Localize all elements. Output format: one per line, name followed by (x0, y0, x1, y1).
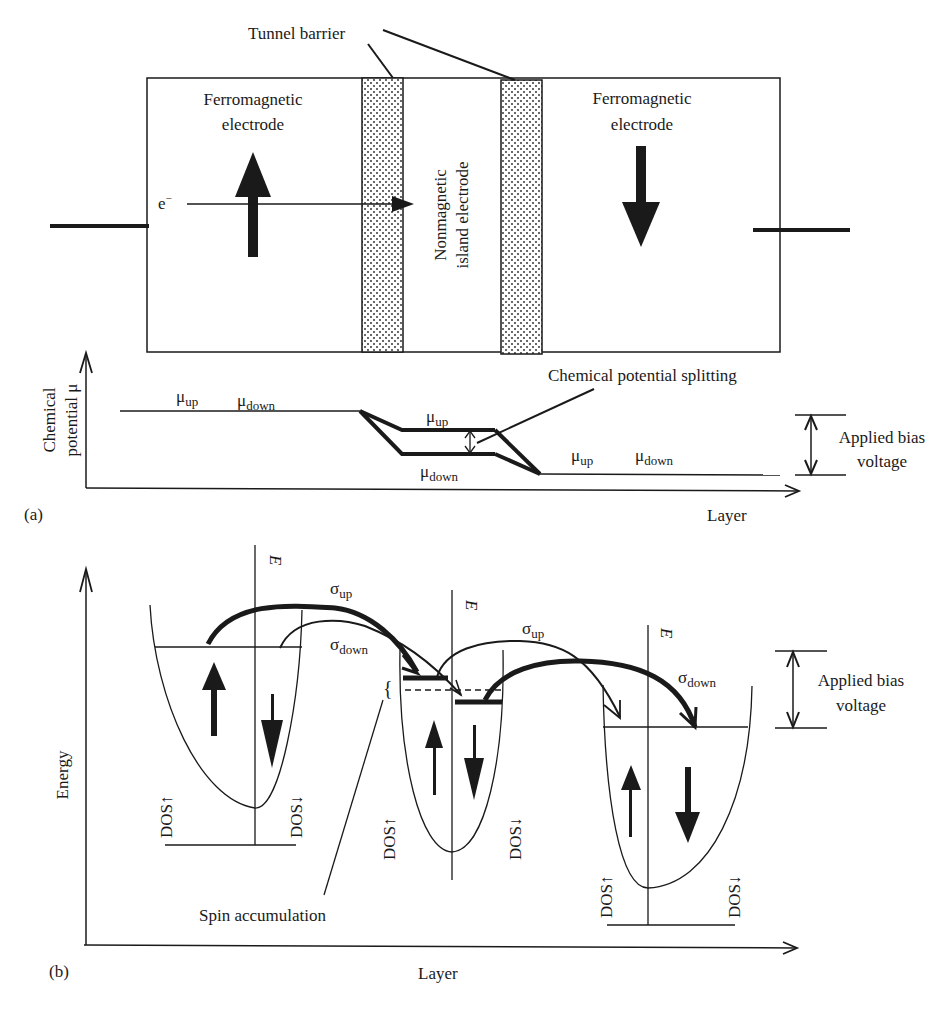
tunnel-barrier-left (362, 78, 403, 352)
left-electrode-label-1: Ferromagnetic (203, 90, 303, 109)
bias-label-a-2: voltage (857, 452, 907, 471)
middle-e-label: E (462, 599, 481, 611)
left-dos-down-label: DOS↓ (287, 795, 306, 838)
mu-up-right: μup (571, 446, 593, 468)
sigma-down-arc-left (280, 621, 461, 695)
left-dos-curve (150, 605, 302, 808)
mu-down-left: μdown (237, 391, 276, 413)
middle-spin-down-arrow-icon (464, 725, 484, 800)
spin-accumulation-brace: { (383, 677, 393, 699)
right-dos-down-label: DOS↓ (725, 875, 744, 918)
left-dos-up-label: DOS↑ (157, 795, 176, 838)
bias-label-b-1: Applied bias (818, 671, 904, 690)
electron-label: e− (158, 192, 172, 213)
tunnel-barrier-label: Tunnel barrier (248, 24, 345, 43)
svg-text:Nonmagnetic: Nonmagnetic (431, 169, 450, 261)
sigma-up-arc-right (437, 641, 620, 717)
left-spin-up-arrow-icon (202, 662, 226, 736)
tunnel-barrier-pointer-left (368, 44, 393, 78)
mu-down-ramp-right (495, 454, 540, 474)
mu-y-axis-label: Chemical potential μ (40, 384, 81, 457)
mu-up-island: μup (426, 407, 448, 429)
mu-up-ramp-right (495, 430, 540, 474)
splitting-pointer (477, 389, 594, 443)
middle-dos-up-label: DOS↑ (380, 817, 399, 860)
sigma-up-arc-left (208, 606, 417, 672)
sigma-down-label-left: σdown (330, 635, 369, 657)
right-spin-up-arrow-icon (621, 765, 641, 837)
right-electrode-label-2: electrode (611, 115, 673, 134)
right-dos: E DOS↑ DOS↓ (597, 625, 752, 925)
island-label: Nonmagnetic island electrode (431, 161, 472, 268)
sigma-down-label-right: σdown (678, 668, 717, 690)
tunnel-barrier-right (501, 80, 542, 354)
left-spin-down-arrow-icon (261, 694, 283, 768)
mu-up-left: μup (176, 387, 198, 409)
energy-y-axis-label: Energy (53, 750, 72, 799)
middle-dos: E { DOS↑ DOS↓ (380, 590, 525, 880)
mu-x-axis (86, 488, 798, 491)
panel-a-label: (a) (24, 505, 43, 524)
spin-transport-diagram: Tunnel barrier Ferromagnetic electrode e… (0, 0, 950, 1012)
right-mu-line (540, 474, 780, 475)
splitting-label: Chemical potential splitting (548, 366, 737, 385)
mu-down-right: μdown (635, 446, 674, 468)
middle-dos-down-label: DOS↓ (506, 817, 525, 860)
magnetization-down-arrow-icon (622, 146, 660, 247)
spin-accumulation-label: Spin accumulation (199, 906, 327, 925)
panel-a: Tunnel barrier Ferromagnetic electrode e… (24, 24, 925, 525)
layer-x-axis-label: Layer (418, 964, 458, 983)
right-e-label: E (657, 627, 676, 639)
mu-down-island: μdown (420, 462, 459, 484)
spin-accumulation-pointer (324, 700, 383, 895)
right-electrode-label-1: Ferromagnetic (592, 89, 692, 108)
panel-b: Energy Layer (b) E DOS↑ DOS↓ E (49, 545, 904, 983)
svg-text:Chemical: Chemical (40, 387, 59, 452)
layer-x-axis (84, 945, 797, 948)
right-spin-down-arrow-icon (675, 767, 700, 843)
sigma-up-label-left: σup (330, 579, 352, 601)
svg-text:island electrode: island electrode (453, 161, 472, 268)
bias-label-a-1: Applied bias (839, 428, 925, 447)
svg-text:potential μ: potential μ (62, 384, 81, 457)
bias-label-b-2: voltage (836, 696, 886, 715)
left-dos: E DOS↑ DOS↓ (150, 545, 306, 845)
panel-b-label: (b) (49, 962, 69, 981)
middle-spin-up-arrow-icon (425, 720, 443, 795)
mu-x-axis-label: Layer (707, 506, 747, 525)
left-e-label: E (266, 554, 285, 566)
tunnel-barrier-pointer-right (383, 30, 515, 80)
left-electrode-label-2: electrode (222, 115, 284, 134)
right-dos-up-label: DOS↑ (597, 875, 616, 918)
sigma-up-label-right: σup (522, 619, 544, 641)
